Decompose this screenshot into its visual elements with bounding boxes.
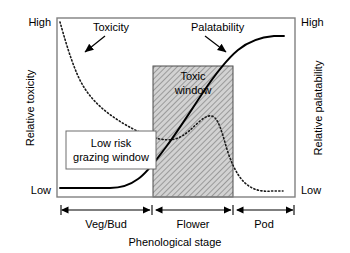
toxic-window-line2: window [174,84,212,96]
toxic-window-line1: Toxic [180,70,206,82]
stage-label-vegbud: Veg/Bud [85,218,127,230]
palatability-label: Palatability [191,21,245,33]
y-left-low-label: Low [31,184,51,196]
y-right-low-label: Low [301,184,321,196]
y-right-high-label: High [301,16,324,28]
stage-range-arrows [61,205,294,215]
stage-label-pod: Pod [254,218,274,230]
low-risk-line2: grazing window [73,151,149,163]
y-right-axis-title: Relative palatability [312,60,324,155]
y-left-axis-title: Relative toxicity [24,69,36,146]
chart-figure: Low risk grazing window Toxic window Tox… [0,0,350,253]
x-axis-title: Phenological stage [129,236,222,248]
stage-label-flower: Flower [176,218,209,230]
y-left-high-label: High [28,16,51,28]
toxicity-label: Toxicity [93,21,130,33]
low-risk-line1: Low risk [91,137,132,149]
